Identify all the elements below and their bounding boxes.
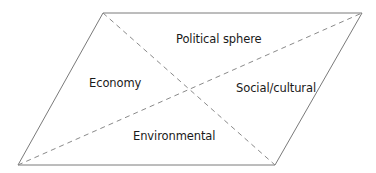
region-label-environmental: Environmental xyxy=(133,131,215,143)
region-label-economy: Economy xyxy=(89,78,141,90)
region-label-political-sphere: Political sphere xyxy=(176,34,261,46)
parallelogram-diagram xyxy=(0,0,376,173)
region-label-social-cultural: Social/cultural xyxy=(236,83,316,95)
diagram-canvas: Political sphere Economy Social/cultural… xyxy=(0,0,376,173)
